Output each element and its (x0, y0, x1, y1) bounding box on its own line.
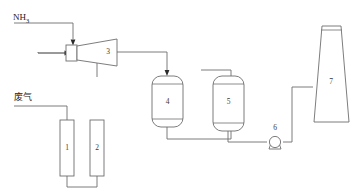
ammonia-formula-subscript: 3 (26, 17, 29, 24)
pump-6-label: 6 (273, 123, 277, 132)
pipe-pump-to-stack (283, 87, 313, 142)
pipe-wastegas-to-column1 (14, 106, 67, 120)
column-1-label: 1 (65, 143, 69, 152)
stack-7-body (314, 26, 349, 122)
pump-6-impeller (269, 136, 280, 147)
waste-gas-inlet-label: 废气 (14, 91, 32, 102)
column-2-label: 2 (95, 143, 99, 152)
ammonia-formula-main: NH (13, 12, 26, 22)
mixer-block (66, 45, 77, 61)
pipe-ammonia-to-mixer (14, 23, 73, 39)
venturi-diffuser-3-label: 3 (106, 47, 110, 56)
venturi-diffuser-3-body (77, 39, 117, 66)
pipe-column1-to-column2 (67, 176, 97, 187)
flowsheet-canvas: 3 1 2 4 5 6 7 NH3 废气 (0, 0, 360, 195)
pipe-venturi-to-vessel4 (117, 52, 167, 70)
stack-7-label: 7 (329, 77, 333, 86)
process-flow-diagram: 3 1 2 4 5 6 7 NH3 废气 (0, 0, 360, 195)
arrow-into-vessel4 (165, 70, 170, 76)
vessel-4-label: 4 (166, 97, 170, 106)
ammonia-inlet-label: NH3 (13, 12, 29, 24)
pipe-vessel5-to-pump (228, 131, 267, 142)
vessel-5-label: 5 (227, 97, 231, 106)
